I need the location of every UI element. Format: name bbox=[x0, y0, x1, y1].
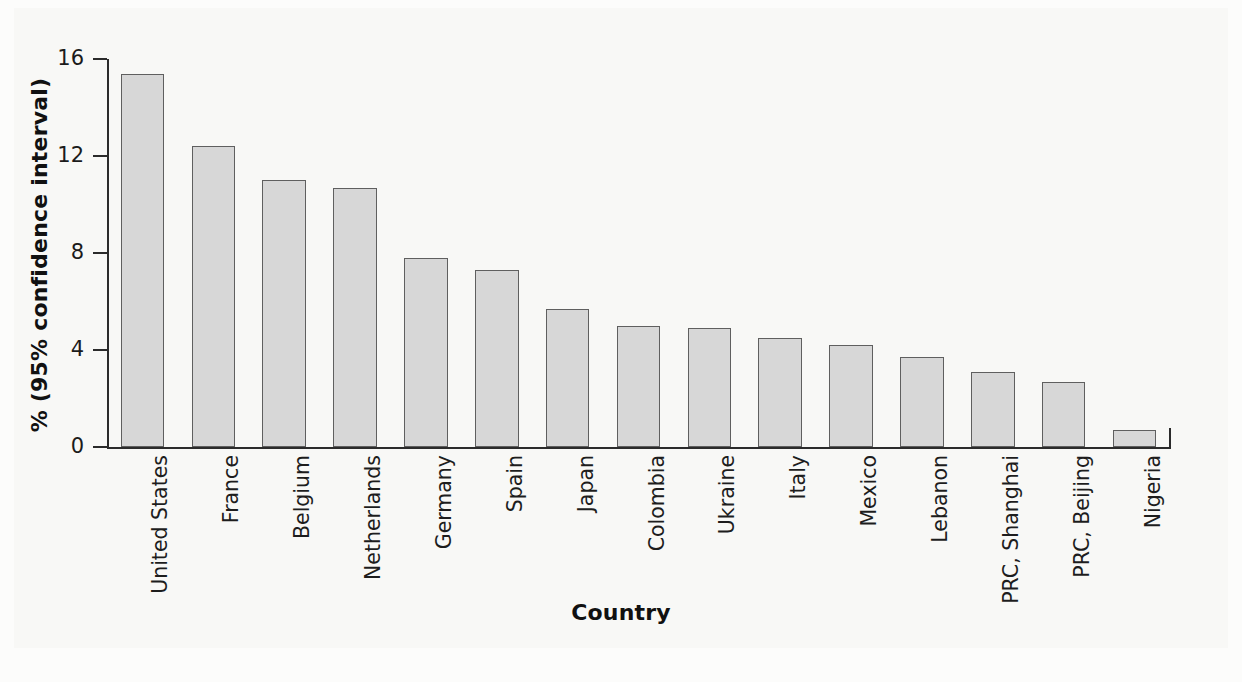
x-axis-category-label: Japan bbox=[576, 455, 597, 512]
bar[interactable] bbox=[617, 326, 661, 447]
bar[interactable] bbox=[1042, 382, 1086, 447]
bar[interactable] bbox=[192, 146, 236, 447]
x-axis-title: Country bbox=[0, 600, 1242, 625]
bar[interactable] bbox=[829, 345, 873, 447]
bar[interactable] bbox=[262, 180, 306, 447]
bar[interactable] bbox=[121, 74, 165, 447]
bar-chart: 0481216 United StatesFranceBelgiumNether… bbox=[0, 0, 1242, 682]
bars-area bbox=[107, 59, 1170, 447]
x-axis-category-label: PRC, Shanghai bbox=[1001, 455, 1022, 604]
x-axis-category-label: United States bbox=[150, 455, 171, 594]
y-axis-tick bbox=[93, 58, 107, 60]
y-axis-tick bbox=[93, 155, 107, 157]
bar[interactable] bbox=[688, 328, 732, 447]
x-axis-category-label: France bbox=[221, 455, 242, 523]
x-axis-category-label: Ukraine bbox=[717, 455, 738, 534]
y-axis-title: % (95% confidence interval) bbox=[22, 60, 56, 450]
x-axis-category-label: PRC, Beijing bbox=[1072, 455, 1093, 578]
y-axis-tick bbox=[93, 446, 107, 448]
bar[interactable] bbox=[333, 188, 377, 447]
x-axis-category-label: Netherlands bbox=[363, 455, 384, 580]
x-axis-category-label: Mexico bbox=[859, 455, 880, 527]
x-axis-category-label: Germany bbox=[434, 455, 455, 549]
bar[interactable] bbox=[900, 357, 944, 447]
bar[interactable] bbox=[546, 309, 590, 447]
y-axis-title-text: % (95% confidence interval) bbox=[27, 78, 52, 433]
bar[interactable] bbox=[758, 338, 802, 447]
y-axis-tick bbox=[93, 349, 107, 351]
x-axis-category-label: Italy bbox=[788, 455, 809, 499]
x-axis-category-label: Colombia bbox=[647, 455, 668, 551]
x-axis-category-label: Lebanon bbox=[930, 455, 951, 543]
bar[interactable] bbox=[971, 372, 1015, 447]
x-axis-category-label: Nigeria bbox=[1143, 455, 1164, 528]
page-background: 0481216 United StatesFranceBelgiumNether… bbox=[0, 0, 1242, 682]
x-axis-line bbox=[107, 447, 1171, 449]
bar[interactable] bbox=[404, 258, 448, 447]
bar[interactable] bbox=[475, 270, 519, 447]
y-axis-tick bbox=[93, 252, 107, 254]
bar[interactable] bbox=[1113, 430, 1157, 447]
x-axis-category-label: Spain bbox=[505, 455, 526, 512]
x-axis-category-label: Belgium bbox=[292, 455, 313, 539]
